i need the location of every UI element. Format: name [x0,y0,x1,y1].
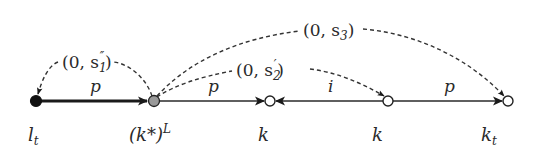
node-label-kstarL: (k*)L [129,122,171,145]
dashed-label-s3: (0, s3) [303,20,354,43]
node-kt [503,96,513,106]
edge-label-p-2: p [208,76,219,96]
node-label-kt: kt [481,124,497,148]
node-label-k1: k [258,124,269,145]
dashed-label-s1: (0, s1″) [62,50,112,75]
state-transition-diagram: p p i p (0, s1″) (0, s2′) (0, s3) lt (k*… [0,0,541,158]
node-lt [31,96,42,107]
edge-label-p-3: p [444,76,455,96]
node-kstarL [149,96,160,107]
node-label-k2: k [372,124,383,145]
node-k2 [383,96,393,106]
dashed-label-s2: (0, s2′) [236,58,284,83]
edge-label-i: i [328,76,333,96]
edge-label-p-1: p [90,76,101,96]
node-k1 [265,96,275,106]
node-label-lt: lt [28,124,39,148]
